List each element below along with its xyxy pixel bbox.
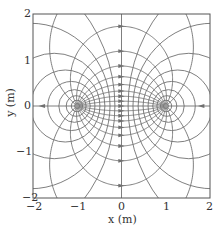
x-axis-label: x (m) (108, 214, 137, 225)
arrowhead-icon (198, 104, 204, 108)
positive-charge-marker (75, 104, 80, 109)
x-tick-2: 2 (206, 201, 213, 212)
y-tick-1: 1 (24, 55, 31, 66)
arrowhead-icon (39, 104, 45, 108)
x-tick-1: 1 (163, 201, 170, 212)
negative-charge-marker (164, 104, 169, 109)
y-axis-label: y (m) (5, 88, 16, 117)
dipole-field-figure: 2 1 0 −1 −2 −2 −1 0 1 2 x (m) y (m) (0, 0, 224, 233)
x-tick-neg2: −2 (26, 201, 42, 212)
y-tick-neg1: −1 (16, 146, 32, 157)
y-tick-2: 2 (24, 8, 31, 19)
y-tick-0: 0 (24, 100, 31, 111)
x-tick-0: 0 (118, 201, 125, 212)
x-tick-neg1: −1 (70, 201, 86, 212)
